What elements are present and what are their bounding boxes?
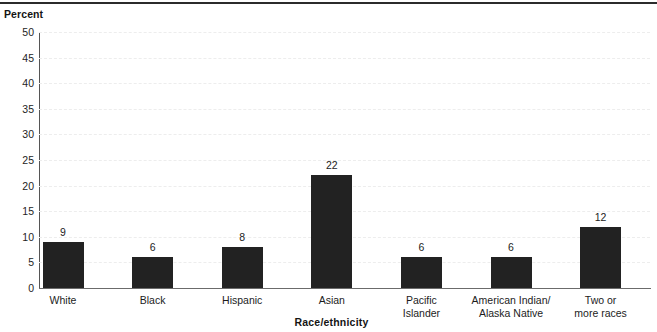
y-tick-label-30: 30 [2,128,34,140]
gridline-50 [39,32,650,33]
y-tick-label-0: 0 [2,282,34,294]
gridline-35 [39,109,650,110]
bar-value-label: 6 [150,241,156,253]
header-divider [0,2,657,4]
y-tick-label-5: 5 [2,256,34,268]
gridline-45 [39,58,650,59]
x-tick-label-line: White [50,294,77,307]
x-tick-label-line: Asian [319,294,345,307]
y-tick-label-50: 50 [2,26,34,38]
y-tick-label-45: 45 [2,52,34,64]
x-tick-label: Asian [319,294,345,307]
x-axis-title: Race/ethnicity [0,316,657,328]
bar[interactable] [491,257,532,288]
y-axis-tick-labels: 05101520253035404550 [0,0,34,332]
y-tick-label-35: 35 [2,103,34,115]
y-tick-label-40: 40 [2,77,34,89]
y-tick-label-25: 25 [2,154,34,166]
x-tick-label-line: American Indian/ [472,294,551,307]
bar-value-label: 6 [418,241,424,253]
gridline-25 [39,160,650,161]
bar-value-label: 22 [326,159,338,171]
x-tick-label: Black [140,294,166,307]
x-tick-label-line: Pacific [403,294,440,307]
bar-value-label: 8 [239,231,245,243]
bar[interactable] [401,257,442,288]
y-tick-label-10: 10 [2,231,34,243]
bar-value-label: 12 [595,211,607,223]
bar[interactable] [580,227,621,288]
y-tick-label-15: 15 [2,205,34,217]
bar[interactable] [43,242,84,288]
x-tick-label-line: Black [140,294,166,307]
bar[interactable] [222,247,263,288]
x-axis-line [39,288,651,289]
bar-value-label: 9 [60,226,66,238]
x-tick-label-line: Two or [574,294,627,307]
gridline-30 [39,134,650,135]
y-tick-label-20: 20 [2,180,34,192]
plot-area [39,32,650,288]
x-tick-label-line: Hispanic [222,294,262,307]
gridline-40 [39,83,650,84]
x-tick-label: White [50,294,77,307]
bar[interactable] [132,257,173,288]
bar[interactable] [311,175,352,288]
x-axis-title-text: Race/ethnicity [295,316,369,328]
x-tick-label: Hispanic [222,294,262,307]
bar-value-label: 6 [508,241,514,253]
